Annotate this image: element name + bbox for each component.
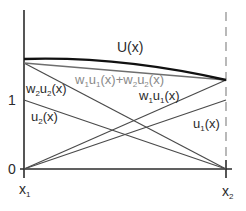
- w2u2-label: w2u2(x): [26, 82, 67, 98]
- w1u1-label: w1u1(x): [139, 89, 180, 105]
- y-tick-1: 1: [8, 93, 16, 107]
- U-label: U(x): [117, 40, 143, 54]
- x2-label: x2: [222, 184, 233, 201]
- u1-label: u1(x): [193, 117, 220, 133]
- sum-label: w1u1(x)+w2u2(x): [75, 73, 164, 89]
- u2-label: u2(x): [31, 110, 58, 126]
- y-tick-0: 0: [8, 162, 16, 176]
- x1-label: x1: [19, 182, 30, 199]
- diagram-canvas: [0, 0, 246, 211]
